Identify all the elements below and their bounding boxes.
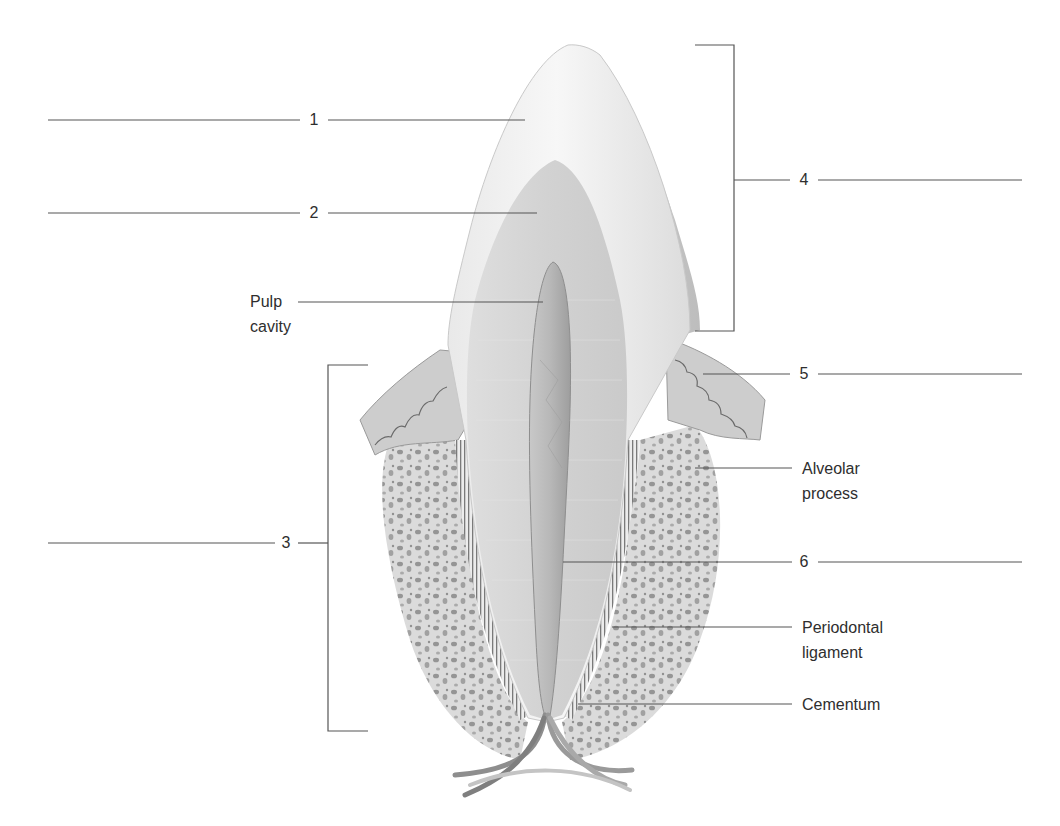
label-number-5: 5 [796,365,812,383]
tooth-anatomy-illustration [0,0,1060,826]
label-cementum: Cementum [802,692,880,717]
gingiva-right [666,340,765,440]
label-number-2: 2 [306,204,322,222]
label-periodontal-ligament: Periodontal ligament [802,615,883,665]
label-number-4: 4 [796,171,812,189]
label-number-1: 1 [306,111,322,129]
label-alveolar-process: Alveolar process [802,456,860,506]
label-number-6: 6 [796,553,812,571]
label-number-3: 3 [278,534,294,552]
label-pulp-cavity: Pulp cavity [250,289,291,339]
